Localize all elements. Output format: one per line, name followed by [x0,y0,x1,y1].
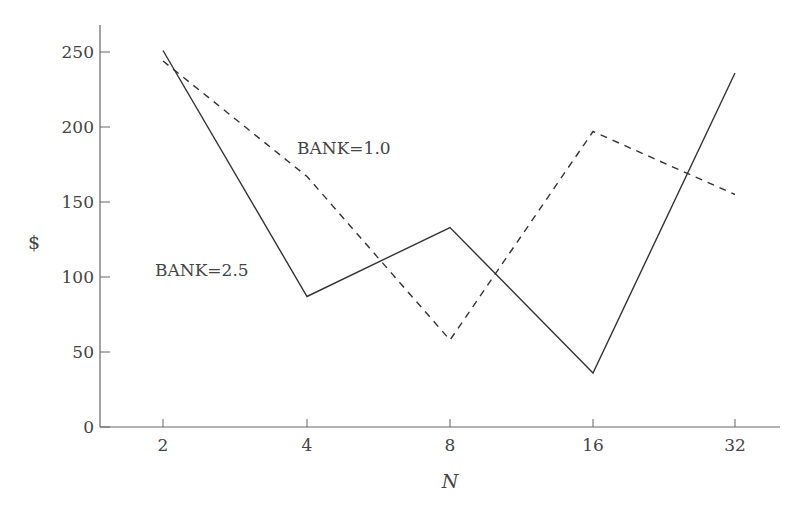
series-line-bank-2-5 [163,51,735,374]
y-tick-label: 100 [62,267,94,287]
y-tick-label: 50 [72,342,94,362]
series-lines [163,51,735,374]
axes [100,25,780,427]
line-chart: 050100150200250 2481632 $ N BANK=1.0 BAN… [0,0,812,513]
x-tick-label: 32 [724,435,746,455]
y-axis-label: $ [28,231,40,253]
annotation-bank-1-0: BANK=1.0 [297,138,391,158]
x-tick-label: 16 [582,435,604,455]
y-axis-ticks: 050100150200250 [62,42,110,437]
x-axis-label: N [441,470,460,492]
annotation-bank-2-5: BANK=2.5 [155,260,249,280]
y-tick-label: 250 [62,42,94,62]
y-tick-label: 200 [62,117,94,137]
x-tick-label: 8 [445,435,456,455]
y-tick-label: 150 [62,192,94,212]
x-tick-label: 4 [302,435,313,455]
x-axis-ticks: 2481632 [158,419,746,455]
series-line-bank-1-0 [163,61,735,340]
y-tick-label: 0 [83,417,94,437]
x-tick-label: 2 [158,435,169,455]
